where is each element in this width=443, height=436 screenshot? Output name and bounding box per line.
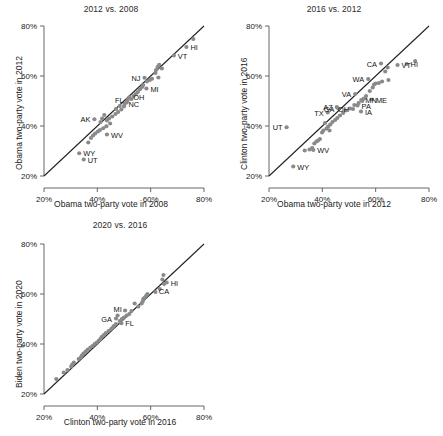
- y-axis-title: Biden two-party vote in 2020: [14, 280, 24, 388]
- svg-text:VT: VT: [402, 61, 412, 70]
- x-axis-title: Clinton two-party vote in 2016: [0, 417, 240, 427]
- svg-text:MI: MI: [113, 305, 121, 314]
- svg-text:VA: VA: [342, 90, 351, 99]
- svg-text:CA: CA: [159, 287, 169, 296]
- svg-text:ME: ME: [376, 96, 387, 105]
- svg-text:20%: 20%: [246, 172, 262, 181]
- svg-text:OH: OH: [338, 105, 349, 114]
- svg-text:WY: WY: [297, 163, 309, 172]
- y-axis-title: Clinton two-party vote in 2016: [239, 58, 249, 170]
- plot-area: 20%40%60%80%20%40%60%80%HICAFLMIGA: [0, 216, 270, 436]
- plot-area: 20%40%60%80%20%40%60%80%HIVTNJMIOHFLNCAK…: [0, 0, 222, 218]
- svg-text:TX: TX: [314, 109, 324, 118]
- svg-text:HI: HI: [171, 279, 178, 288]
- svg-text:AK: AK: [81, 115, 91, 124]
- svg-text:HI: HI: [411, 60, 418, 69]
- svg-text:FL: FL: [115, 96, 124, 105]
- plot-area: 20%40%60%80%20%40%60%80%HIVTCAWAMEMNVAPA…: [225, 0, 443, 218]
- svg-text:GA: GA: [324, 105, 335, 114]
- svg-text:FL: FL: [125, 319, 134, 328]
- svg-text:UT: UT: [273, 123, 283, 132]
- svg-text:WV: WV: [317, 146, 329, 155]
- x-axis-title: Obama two-party vote in 2008: [0, 199, 222, 209]
- y-axis-title: Obama two-party vote in 2012: [14, 56, 24, 170]
- svg-text:80%: 80%: [246, 22, 262, 31]
- svg-text:20%: 20%: [21, 172, 37, 181]
- svg-text:GA: GA: [101, 315, 112, 324]
- svg-text:80%: 80%: [21, 240, 37, 249]
- svg-text:80%: 80%: [21, 22, 37, 31]
- svg-text:IA: IA: [365, 108, 372, 117]
- panel-2012-vs-2008: 2012 vs. 2008 20%40%60%80%20%40%60%80%HI…: [0, 0, 222, 218]
- svg-text:NJ: NJ: [131, 74, 140, 83]
- svg-text:NC: NC: [129, 100, 140, 109]
- x-axis-title: Obama two-party vote in 2012: [225, 199, 443, 209]
- svg-text:CA: CA: [367, 60, 377, 69]
- svg-text:HI: HI: [190, 43, 197, 52]
- svg-text:WA: WA: [353, 75, 365, 84]
- scatter-panel-figure: 2012 vs. 2008 20%40%60%80%20%40%60%80%HI…: [0, 0, 443, 436]
- svg-text:20%: 20%: [21, 390, 37, 399]
- svg-text:UT: UT: [88, 156, 98, 165]
- svg-text:MI: MI: [150, 85, 158, 94]
- svg-text:VT: VT: [178, 52, 188, 61]
- panel-2016-vs-2012: 2016 vs. 2012 20%40%60%80%20%40%60%80%HI…: [225, 0, 443, 218]
- panel-2020-vs-2016: 2020 vs. 2016 20%40%60%80%20%40%60%80%HI…: [0, 216, 270, 436]
- svg-text:WV: WV: [111, 131, 123, 140]
